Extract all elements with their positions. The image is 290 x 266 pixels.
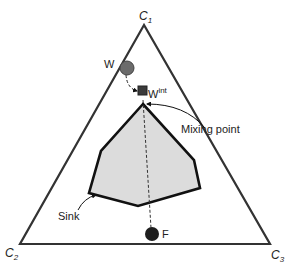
f-label: F [162,228,169,240]
vertex-c2-label: C2 [5,246,19,262]
sink-arrow [78,195,96,210]
w-int-label: Wint [148,86,168,100]
ternary-diagram: C1 C2 C3 W Wint F Mixing point Sink [0,0,290,266]
w-to-wint-dashed-arrow [126,75,137,91]
vertex-c3-label: C3 [271,248,285,264]
sink-label: Sink [58,210,80,222]
sink-region [89,104,200,206]
w-point-icon [120,61,134,75]
w-label: W [104,58,115,70]
f-point-icon [145,227,159,241]
vertex-c1-label: C1 [139,9,152,25]
w-int-point-icon [138,86,147,95]
mixing-point-label: Mixing point [181,123,240,135]
